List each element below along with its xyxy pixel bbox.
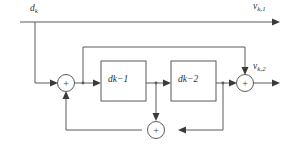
adder-left-operator: + (63, 78, 69, 89)
delay-block-1-label: dk−1 (108, 75, 128, 85)
delay-block-2-label: dk−2 (178, 75, 198, 85)
arrowhead-adder-right-left-input (229, 80, 237, 87)
delay-block-2-subscript: k−2 (183, 74, 198, 84)
arrowhead-output-bottom (272, 80, 280, 87)
delay-block-1-subscript: k−1 (113, 74, 128, 84)
wire-adder-bottom-to-adder-left (66, 99, 142, 130)
label-input-subscript: k (35, 7, 38, 14)
diagram-canvas: + + + (0, 0, 296, 152)
arrowhead-delay-1-input (93, 80, 101, 87)
label-output-bottom: vk,2 (253, 62, 266, 72)
arrowhead-adder-right-top-input (242, 67, 249, 75)
wire-input-branch-to-adder-left (35, 22, 50, 83)
label-output-bottom-subscript: k,2 (257, 65, 265, 72)
arrowhead-adder-left-bottom-input (63, 91, 70, 99)
adder-right-operator: + (242, 78, 248, 89)
arrowhead-adder-bottom-top-input (153, 113, 160, 121)
arrowhead-adder-left-input (50, 80, 58, 87)
arrowhead-adder-bottom-right-input (178, 127, 186, 134)
junction-dot-midtap (155, 82, 158, 85)
arrowhead-output-top (272, 19, 280, 26)
junction-dot-feedforward-tap (82, 82, 85, 85)
arrowhead-delay-2-input (163, 80, 171, 87)
label-input-signal: dk (30, 4, 38, 14)
label-output-top-subscript: k,1 (257, 5, 265, 12)
adder-bottom-operator: + (153, 125, 159, 136)
junction-dot-delay-2-tap (222, 82, 225, 85)
label-output-top: vk,1 (253, 2, 266, 12)
block-diagram: + + + dk vk,1 vk,2 dk−1 dk−2 (0, 0, 296, 152)
